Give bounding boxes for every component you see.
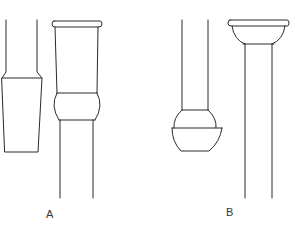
taper-outer-socket [52, 21, 102, 198]
figure-label-b: B [226, 206, 233, 218]
figure-label-a: A [46, 208, 53, 220]
cup-socket [228, 20, 289, 198]
taper-inner-joint [2, 20, 42, 152]
diagram-canvas [0, 0, 295, 230]
ball-joint [172, 20, 222, 151]
